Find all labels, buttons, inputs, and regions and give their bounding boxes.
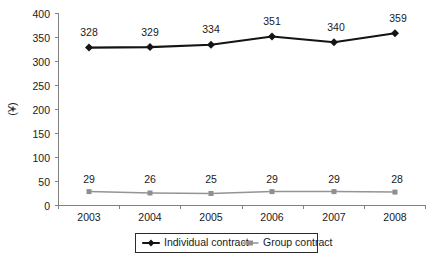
data-point-marker — [148, 191, 153, 196]
x-tick-label-2005: 2005 — [199, 211, 223, 223]
data-label-2007-group: 29 — [328, 173, 340, 185]
data-point-marker — [391, 29, 399, 37]
data-point-marker — [268, 33, 276, 41]
x-axis-tick-labels: 2003 2004 2005 2006 2007 2008 — [77, 211, 407, 223]
y-tick-label-250: 250 — [32, 80, 50, 92]
data-point-marker — [393, 190, 398, 195]
y-tick-label-200: 200 — [32, 104, 50, 116]
x-tick-label-2004: 2004 — [138, 211, 162, 223]
y-tick-label-300: 300 — [32, 56, 50, 68]
legend-square-marker-icon — [248, 241, 253, 246]
data-label-2003-group: 29 — [83, 173, 95, 185]
y-tick-label-400: 400 — [32, 8, 50, 20]
legend-label-group-contract: Group contract — [263, 236, 333, 248]
data-point-marker — [330, 38, 338, 46]
y-tick-label-50: 50 — [38, 176, 50, 188]
y-axis-title-label: (¥) — [6, 102, 18, 115]
y-tick-label-0: 0 — [44, 200, 50, 212]
data-label-2004-individual: 329 — [141, 26, 159, 38]
y-axis-title: (¥) — [6, 102, 18, 115]
data-label-2007-individual: 340 — [327, 21, 345, 33]
x-axis-ticks — [59, 206, 426, 210]
data-point-marker — [207, 41, 215, 49]
data-label-2004-group: 26 — [144, 173, 156, 185]
data-point-marker — [146, 43, 154, 51]
data-label-2003-individual: 328 — [80, 26, 98, 38]
data-labels-group-contract: 29 26 25 29 29 28 — [83, 173, 403, 185]
data-label-2005-individual: 334 — [202, 23, 220, 35]
line-chart: 400 350 300 250 200 150 100 50 0 2003 20… — [0, 0, 435, 268]
data-label-2008-group: 28 — [391, 173, 403, 185]
data-point-marker — [332, 189, 337, 194]
data-point-marker — [87, 189, 92, 194]
x-tick-label-2003: 2003 — [77, 211, 101, 223]
x-tick-label-2006: 2006 — [260, 211, 284, 223]
y-axis-tick-labels: 400 350 300 250 200 150 100 50 0 — [32, 8, 50, 212]
series-group-contract — [87, 189, 398, 196]
y-tick-label-350: 350 — [32, 32, 50, 44]
chart-container: 400 350 300 250 200 150 100 50 0 2003 20… — [0, 0, 435, 268]
series-line-individual-contract — [89, 33, 395, 47]
series-individual-contract — [85, 29, 399, 51]
y-tick-label-150: 150 — [32, 128, 50, 140]
data-point-marker — [209, 191, 214, 196]
x-tick-label-2008: 2008 — [383, 211, 407, 223]
data-label-2005-group: 25 — [205, 173, 217, 185]
data-label-2006-group: 29 — [266, 173, 278, 185]
data-label-2006-individual: 351 — [263, 15, 281, 27]
y-axis-ticks — [55, 14, 59, 206]
data-point-marker — [270, 189, 275, 194]
legend-label-individual-contract: Individual contract — [164, 236, 249, 248]
y-tick-label-100: 100 — [32, 152, 50, 164]
series-line-group-contract — [89, 192, 395, 194]
data-label-2008-individual: 359 — [389, 12, 407, 24]
x-tick-label-2007: 2007 — [322, 211, 346, 223]
data-point-marker — [85, 44, 93, 52]
chart-legend: Individual contract Group contract — [136, 234, 333, 253]
data-labels-individual-contract: 328 329 334 351 340 359 — [80, 12, 407, 38]
